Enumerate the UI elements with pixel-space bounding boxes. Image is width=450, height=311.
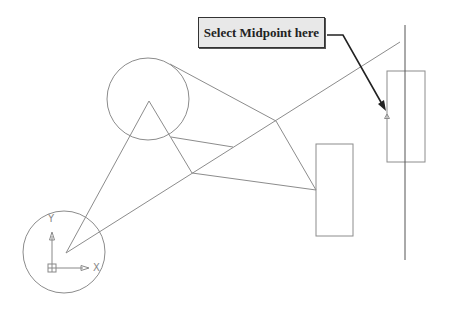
inner-to-rectangle-line[interactable] xyxy=(192,173,316,190)
ucs-x-label: X xyxy=(93,262,100,273)
callout-box: Select Midpoint here xyxy=(198,17,325,48)
callout-leader xyxy=(327,35,386,111)
middle-rectangle[interactable] xyxy=(316,144,353,236)
apex-to-lower-vertex-line[interactable] xyxy=(66,101,149,253)
tangent-line[interactable] xyxy=(170,64,276,121)
lower-circle[interactable] xyxy=(23,211,105,293)
upper-circle[interactable] xyxy=(107,58,189,140)
right-rectangle[interactable] xyxy=(387,71,425,162)
ucs-y-label: Y xyxy=(48,213,54,224)
apex-to-inner-point-line[interactable] xyxy=(149,101,192,173)
arrowhead-icon xyxy=(378,100,386,111)
circle-to-mid-line[interactable] xyxy=(171,137,233,147)
callout-label: Select Midpoint here xyxy=(204,25,319,41)
vertex-to-rectangle-line[interactable] xyxy=(276,121,316,190)
